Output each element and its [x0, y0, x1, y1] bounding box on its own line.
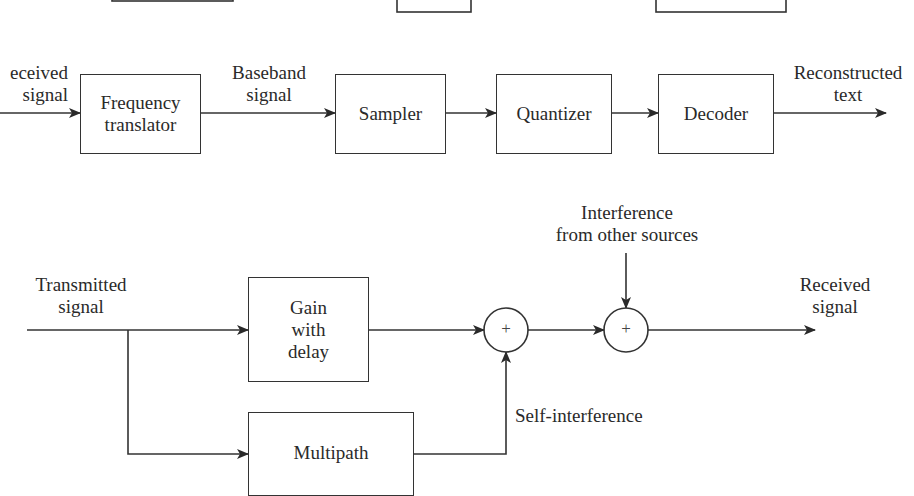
arrow-branch-to-multipath [128, 330, 248, 454]
received-signal-output-label: Received signal [780, 274, 890, 318]
interference-label: Interference from other sources [530, 202, 724, 246]
block-decoder: Decoder [658, 74, 774, 154]
self-interference-label: Self-interference [515, 405, 675, 427]
block-label: delay [288, 341, 329, 363]
block-label: translator [100, 114, 180, 136]
block-gain-with-delay: Gain with delay [248, 277, 369, 382]
reconstructed-text-label: Reconstructed text [778, 62, 914, 106]
transmitted-signal-label: Transmitted signal [20, 274, 142, 318]
partial-box-1 [112, 0, 233, 1]
block-sampler: Sampler [335, 74, 446, 154]
block-label: Decoder [684, 103, 748, 125]
block-label: Quantizer [517, 103, 592, 125]
block-quantizer: Quantizer [496, 74, 612, 154]
label-line: signal [780, 296, 890, 318]
label-line: Baseband [220, 62, 318, 84]
label-line: Received [780, 274, 890, 296]
block-label: Frequency [100, 92, 180, 114]
block-label: Sampler [359, 103, 422, 125]
label-line: Interference [530, 202, 724, 224]
block-label: with [288, 319, 329, 341]
summer-1-plus: + [494, 318, 518, 340]
partial-box-2 [397, 0, 471, 12]
block-frequency-translator: Frequencytranslator [80, 74, 201, 154]
label-line: eceived [0, 62, 68, 84]
label-line: Reconstructed [778, 62, 914, 84]
block-label: Multipath [294, 442, 369, 464]
block-label: Gain [288, 297, 329, 319]
baseband-signal-label: Baseband signal [220, 62, 318, 106]
label-line: Transmitted [20, 274, 142, 296]
arrow-self-interference [413, 352, 506, 454]
partial-box-3 [656, 0, 786, 12]
label-line: signal [220, 84, 318, 106]
received-signal-input-label: eceived signal [0, 62, 68, 106]
block-multipath: Multipath [248, 412, 414, 496]
summer-2-plus: + [614, 318, 638, 340]
label-line: signal [0, 84, 68, 106]
label-line: text [778, 84, 914, 106]
label-line: signal [20, 296, 142, 318]
label-line: from other sources [530, 224, 724, 246]
